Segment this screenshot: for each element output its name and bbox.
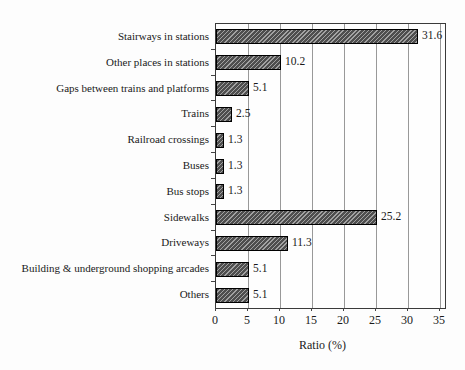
x-tick-label-35: 35 <box>424 313 454 327</box>
bar-railroad-crossings <box>216 133 224 148</box>
bar-trains <box>216 107 232 122</box>
value-label-others: 5.1 <box>253 287 267 302</box>
value-label-buses: 1.3 <box>228 158 242 173</box>
y-axis-tick <box>211 178 215 179</box>
category-label-gaps-between-trains-and-platforms: Gaps between trains and platforms <box>0 80 209 96</box>
gridline-20 <box>344 24 345 308</box>
category-label-building-underground-shopping-arcades: Building & underground shopping arcades <box>0 260 209 276</box>
x-tick-label-5: 5 <box>232 313 262 327</box>
bar-bus-stops <box>216 184 224 199</box>
bar-others <box>216 288 249 303</box>
bar-chart-figure: Ratio (%) 31.6Stairways in stations10.2O… <box>0 0 465 370</box>
y-axis-tick <box>211 281 215 282</box>
category-label-bus-stops: Bus stops <box>0 183 209 199</box>
x-tick-label-20: 20 <box>328 313 358 327</box>
y-axis-tick <box>211 49 215 50</box>
plot-area <box>215 23 446 309</box>
x-tick-label-30: 30 <box>392 313 422 327</box>
category-label-trains: Trains <box>0 105 209 121</box>
gridline-30 <box>408 24 409 308</box>
x-axis-tick-25 <box>375 308 376 311</box>
bar-stairways-in-stations <box>216 29 418 44</box>
category-label-stairways-in-stations: Stairways in stations <box>0 28 209 44</box>
category-label-buses: Buses <box>0 157 209 173</box>
x-axis-tick-5 <box>247 308 248 311</box>
value-label-stairways-in-stations: 31.6 <box>422 28 442 43</box>
category-label-driveways: Driveways <box>0 234 209 250</box>
value-label-bus-stops: 1.3 <box>228 183 242 198</box>
gridline-35 <box>440 24 441 308</box>
bar-building-underground-shopping-arcades <box>216 262 249 277</box>
y-axis-tick <box>211 100 215 101</box>
y-axis-tick <box>211 126 215 127</box>
category-label-others: Others <box>0 286 209 302</box>
value-label-other-places-in-stations: 10.2 <box>285 54 305 69</box>
x-tick-label-25: 25 <box>360 313 390 327</box>
x-axis-tick-15 <box>311 308 312 311</box>
y-axis-tick <box>211 230 215 231</box>
x-tick-label-0: 0 <box>200 313 230 327</box>
category-label-sidewalks: Sidewalks <box>0 209 209 225</box>
value-label-driveways: 11.3 <box>292 235 312 250</box>
value-label-railroad-crossings: 1.3 <box>228 132 242 147</box>
value-label-gaps-between-trains-and-platforms: 5.1 <box>253 80 267 95</box>
bar-sidewalks <box>216 210 377 225</box>
bar-gaps-between-trains-and-platforms <box>216 81 249 96</box>
x-tick-label-15: 15 <box>296 313 326 327</box>
value-label-sidewalks: 25.2 <box>381 209 401 224</box>
category-label-other-places-in-stations: Other places in stations <box>0 54 209 70</box>
category-label-railroad-crossings: Railroad crossings <box>0 131 209 147</box>
gridline-15 <box>312 24 313 308</box>
gridline-25 <box>376 24 377 308</box>
x-axis-tick-35 <box>439 308 440 311</box>
x-tick-label-10: 10 <box>264 313 294 327</box>
value-label-building-underground-shopping-arcades: 5.1 <box>253 261 267 276</box>
bar-other-places-in-stations <box>216 55 281 70</box>
x-axis-title: Ratio (%) <box>210 338 435 353</box>
x-axis-tick-10 <box>279 308 280 311</box>
x-axis-tick-0 <box>215 308 216 311</box>
value-label-trains: 2.5 <box>236 106 250 121</box>
y-axis-tick <box>211 255 215 256</box>
y-axis-tick <box>211 204 215 205</box>
bar-buses <box>216 159 224 174</box>
y-axis-tick <box>211 152 215 153</box>
x-axis-tick-30 <box>407 308 408 311</box>
y-axis-tick <box>211 75 215 76</box>
x-axis-tick-20 <box>343 308 344 311</box>
bar-driveways <box>216 236 288 251</box>
